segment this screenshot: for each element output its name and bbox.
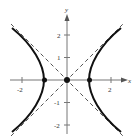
y-tick-label-1: 1 [57,54,61,62]
y-tick-label-neg2: -2 [54,122,60,130]
center-point [64,77,70,83]
y-tick-label-neg1: -1 [54,99,60,107]
y-axis-label: y [64,6,69,14]
x-axis-label: x [127,77,132,85]
y-axis [64,14,70,134]
vertex-right-point [87,78,92,83]
x-tick-label-2: 2 [108,86,112,94]
hyperbola-chart: x y -2 2 2 1 -1 -2 [0,0,140,140]
x-tick-label-neg2: -2 [17,86,23,94]
vertex-left-point [42,78,47,83]
y-tick-label-2: 2 [57,32,61,40]
